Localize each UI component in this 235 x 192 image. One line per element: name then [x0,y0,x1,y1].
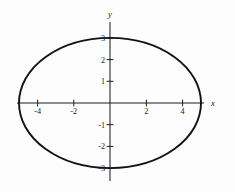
x-tick-label-minus4: -4 [34,107,41,116]
x-tick-label-2: 2 [144,107,148,116]
y-axis-label: y [107,9,112,19]
x-tick-label-4: 4 [181,107,185,116]
y-tick-label-minus3: -3 [98,164,105,173]
ellipse-plot-figure: -4 -2 2 4 3 2 1 -1 -2 -3 x y [0,0,235,192]
y-tick-label-minus1: -1 [98,121,105,130]
y-tick-label-3: 3 [101,34,105,43]
x-tick-label-minus2: -2 [70,107,77,116]
y-tick-label-1: 1 [101,77,105,86]
y-tick-label-minus2: -2 [98,142,105,151]
x-axis-label: x [210,98,215,108]
coordinate-plot-svg: -4 -2 2 4 3 2 1 -1 -2 -3 x y [0,0,235,192]
y-tick-label-2: 2 [101,56,105,65]
